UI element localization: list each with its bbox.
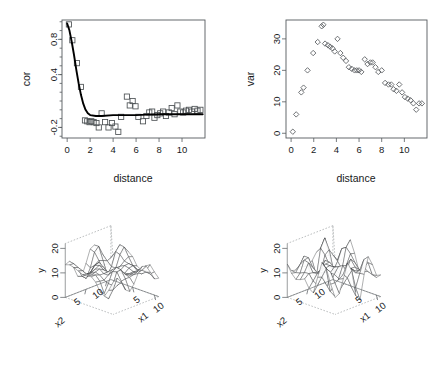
cor-x-axis-title: distance	[113, 172, 152, 184]
var-data-point	[373, 65, 378, 70]
var-y-tick-label: 10	[271, 97, 282, 108]
x1-axis-tick	[133, 287, 134, 292]
var-data-point	[399, 90, 404, 95]
panel-surface-left: 01020y510x2510x1	[0, 189, 222, 378]
var-x-tick-label: 8	[379, 144, 384, 155]
var-x-axis-ticks	[291, 138, 404, 142]
cor-data-point	[133, 104, 138, 109]
figure-canvas: -0.20.40.8 0246810 cor distance 0102030 …	[0, 0, 444, 378]
x1-axis-title: x1	[358, 310, 373, 325]
x1-axis-title: x1	[136, 310, 151, 325]
var-y-axis-ticks	[282, 39, 286, 133]
cor-y-tick-label: 0.8	[48, 33, 59, 46]
cor-x-tick-label: 4	[110, 144, 115, 155]
cor-data-point	[116, 129, 121, 134]
x1-axis-tick	[376, 295, 377, 300]
var-data-point	[310, 50, 315, 55]
var-y-axis-title: var	[244, 71, 256, 86]
var-data-point	[332, 49, 337, 54]
var-data-point	[305, 68, 310, 73]
cor-y-tick-labels: -0.20.40.8	[48, 33, 59, 136]
cor-x-tick-label: 8	[156, 144, 161, 155]
z-axis-tick-label: 20	[49, 243, 60, 254]
var-data-point	[290, 129, 295, 134]
var-y-tick-label: 0	[271, 131, 282, 136]
var-x-tick-label: 4	[334, 144, 339, 155]
cor-x-tick-label: 6	[133, 144, 138, 155]
z-axis-title: y	[257, 268, 268, 273]
z-axis-title: y	[35, 268, 46, 273]
var-data-point	[335, 36, 340, 41]
var-x-axis-title: distance	[336, 172, 375, 184]
var-y-tick-label: 20	[271, 65, 282, 76]
variance-plot-svg: 0102030 0246810 var distance	[222, 0, 444, 189]
var-data-point	[397, 82, 402, 87]
surface-right-wireframe	[287, 238, 381, 300]
var-data-point	[321, 22, 326, 27]
var-data-point	[414, 107, 419, 112]
panel-correlation: -0.20.40.8 0246810 cor distance	[0, 0, 222, 189]
var-x-tick-label: 10	[399, 144, 410, 155]
correlation-plot-svg: -0.20.40.8 0246810 cor distance	[0, 0, 222, 189]
cor-data-points	[66, 22, 203, 135]
var-plot-frame	[286, 20, 427, 138]
cor-x-axis-ticks	[67, 138, 182, 142]
z-axis-tick-label: 20	[271, 243, 282, 254]
x2-axis-title: x2	[274, 314, 289, 329]
cor-data-point	[124, 94, 129, 99]
mesh-facet	[287, 264, 296, 273]
var-x-tick-label: 2	[311, 144, 316, 155]
mesh-facet	[70, 264, 79, 268]
x1-axis-tick-label: 10	[373, 300, 388, 315]
var-x-tick-label: 6	[356, 144, 361, 155]
surface-left-wireframe	[65, 245, 159, 299]
x2-axis-tick-label: 5	[71, 296, 82, 308]
cor-x-tick-label: 0	[65, 144, 70, 155]
var-data-point	[293, 112, 298, 117]
cor-y-axis-title: cor	[20, 71, 32, 86]
var-y-tick-label: 30	[271, 34, 282, 45]
var-data-point	[362, 57, 367, 62]
z-axis-tick-label: 10	[49, 268, 60, 279]
var-x-tick-label: 0	[288, 144, 293, 155]
x1-axis-tick	[154, 295, 155, 300]
cor-data-point	[175, 103, 180, 108]
surface-right-svg: 01020y510x2510x1	[222, 189, 444, 378]
x1-axis-tick-label: 10	[151, 300, 166, 315]
z-axis-tick-label: 10	[271, 268, 282, 279]
cor-x-tick-label: 10	[177, 144, 188, 155]
var-y-tick-labels: 0102030	[271, 34, 282, 136]
cor-x-tick-label: 2	[87, 144, 92, 155]
cor-data-point	[102, 120, 107, 125]
cor-plot-frame	[62, 20, 205, 138]
var-data-point	[319, 24, 324, 29]
z-axis-tick-label: 0	[49, 295, 60, 300]
box-edge	[65, 226, 111, 244]
panel-variance: 0102030 0246810 var distance	[222, 0, 444, 189]
cor-x-tick-labels: 0246810	[65, 144, 188, 155]
z-axis-tick-label: 0	[271, 295, 282, 300]
var-data-point	[315, 39, 320, 44]
cor-y-tick-label: -0.2	[48, 119, 59, 135]
var-data-points	[290, 22, 425, 134]
x2-axis-tick-label: 5	[293, 296, 304, 308]
cor-y-tick-label: 0.4	[48, 68, 59, 81]
var-data-point	[338, 50, 343, 55]
cor-data-point	[113, 124, 118, 129]
x2-axis-title: x2	[52, 314, 67, 329]
surface-left-svg: 01020y510x2510x1	[0, 189, 222, 378]
panel-surface-right: 01020y510x2510x1	[222, 189, 444, 378]
var-x-tick-labels: 0246810	[288, 144, 409, 155]
